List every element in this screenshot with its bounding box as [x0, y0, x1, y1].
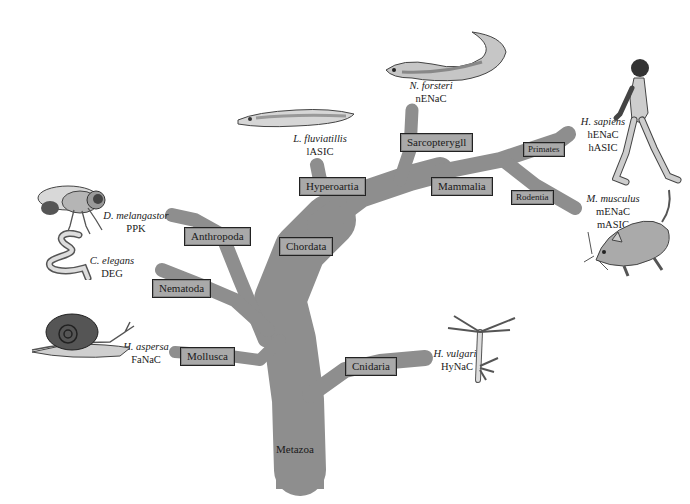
clade-label-nematoda: Nematoda — [152, 279, 211, 298]
clade-label-hyperoartia: Hyperoartia — [299, 177, 366, 196]
clade-label-anthropoda: Anthropoda — [184, 227, 251, 246]
clade-label-chordata: Chordata — [279, 237, 333, 256]
clade-label-sarcopterygii: Sarcopterygll — [400, 133, 473, 152]
clade-label-rodentia: Rodentia — [511, 190, 554, 205]
clade-label-mollusca: Mollusca — [180, 347, 235, 366]
clade-label-cnidaria: Cnidaria — [345, 357, 397, 376]
root-label-metazoa: Metazoa — [276, 443, 314, 455]
human-icon — [612, 58, 682, 186]
species-label-lamprey: L. fluviatillis lASIC — [280, 132, 360, 158]
nematode-worm-icon — [44, 230, 94, 280]
lungfish-icon — [382, 28, 512, 83]
snail-icon — [30, 312, 145, 362]
mouse-icon — [584, 188, 684, 278]
fruit-fly-icon — [30, 178, 115, 238]
lamprey-icon — [236, 104, 356, 134]
clade-label-primates: Primates — [523, 142, 565, 157]
channel-name: nENaC — [396, 92, 466, 105]
channel-name: lASIC — [280, 145, 360, 158]
clade-label-mammalia: Mammalia — [431, 177, 493, 196]
hydra-icon — [440, 314, 520, 386]
